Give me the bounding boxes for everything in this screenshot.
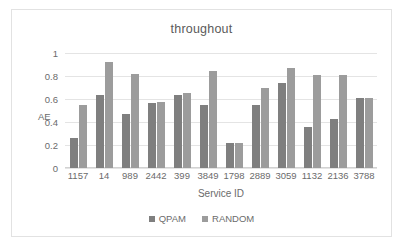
chart-legend: QPAMRANDOM	[12, 213, 391, 224]
bar-group	[221, 53, 247, 168]
y-tick-label: 0	[53, 163, 58, 174]
y-tick-label: 0.8	[45, 71, 58, 82]
bar-random-3788[interactable]	[365, 98, 373, 168]
chart-title: throughout	[12, 22, 391, 36]
x-tick-label: 1798	[221, 170, 247, 181]
bar-qpam-14[interactable]	[96, 95, 104, 168]
y-tick-label: 0.2	[45, 140, 58, 151]
bar-random-1132[interactable]	[313, 75, 321, 168]
bar-group	[91, 53, 117, 168]
y-axis-tick-labels: 00.20.40.60.81	[12, 53, 62, 168]
bar-random-3849[interactable]	[209, 71, 217, 168]
bar-group	[273, 53, 299, 168]
x-tick-label: 2889	[247, 170, 273, 181]
bar-group	[117, 53, 143, 168]
bar-random-989[interactable]	[131, 74, 139, 168]
bar-qpam-399[interactable]	[174, 95, 182, 168]
bar-qpam-1798[interactable]	[226, 143, 234, 168]
bar-qpam-989[interactable]	[122, 114, 130, 168]
bar-random-2136[interactable]	[339, 75, 347, 168]
x-tick-label: 3788	[351, 170, 377, 181]
legend-item-qpam[interactable]: QPAM	[149, 213, 186, 224]
bar-random-1798[interactable]	[235, 143, 243, 168]
bar-random-14[interactable]	[105, 62, 113, 168]
x-tick-label: 3849	[195, 170, 221, 181]
gridline	[65, 168, 377, 169]
bar-qpam-1132[interactable]	[304, 127, 312, 168]
bar-random-3059[interactable]	[287, 68, 295, 168]
bar-qpam-2136[interactable]	[330, 119, 338, 168]
y-tick-label: 0.6	[45, 94, 58, 105]
legend-swatch-icon	[149, 216, 155, 222]
legend-label: QPAM	[159, 213, 186, 224]
plot-area	[65, 53, 377, 168]
y-tick-label: 1	[53, 48, 58, 59]
bar-group	[195, 53, 221, 168]
bar-random-1157[interactable]	[79, 105, 87, 168]
x-tick-label: 399	[169, 170, 195, 181]
bar-group	[299, 53, 325, 168]
bar-group	[325, 53, 351, 168]
bar-qpam-2889[interactable]	[252, 105, 260, 168]
bar-qpam-3788[interactable]	[356, 98, 364, 168]
bar-random-2442[interactable]	[157, 102, 165, 168]
bar-group	[247, 53, 273, 168]
bar-group	[351, 53, 377, 168]
bar-series-layer	[65, 53, 377, 168]
legend-item-random[interactable]: RANDOM	[202, 213, 254, 224]
x-axis-title: Service ID	[65, 188, 377, 199]
bar-group	[143, 53, 169, 168]
chart-frame: throughout 00.20.40.60.81 AE 11571498924…	[11, 9, 392, 237]
bar-qpam-2442[interactable]	[148, 103, 156, 168]
x-tick-label: 3059	[273, 170, 299, 181]
bar-qpam-3849[interactable]	[200, 105, 208, 168]
x-tick-label: 1157	[65, 170, 91, 181]
x-tick-label: 1132	[299, 170, 325, 181]
x-tick-label: 989	[117, 170, 143, 181]
bar-random-399[interactable]	[183, 93, 191, 168]
x-tick-label: 2442	[143, 170, 169, 181]
bar-qpam-3059[interactable]	[278, 83, 286, 168]
y-axis-title: AE	[38, 111, 51, 122]
x-axis-tick-labels: 1157149892442399384917982889305911322136…	[65, 170, 377, 181]
legend-label: RANDOM	[212, 213, 254, 224]
bar-group	[65, 53, 91, 168]
bar-qpam-1157[interactable]	[70, 138, 78, 168]
x-tick-label: 14	[91, 170, 117, 181]
legend-swatch-icon	[202, 216, 208, 222]
bar-group	[169, 53, 195, 168]
x-tick-label: 2136	[325, 170, 351, 181]
bar-random-2889[interactable]	[261, 88, 269, 169]
